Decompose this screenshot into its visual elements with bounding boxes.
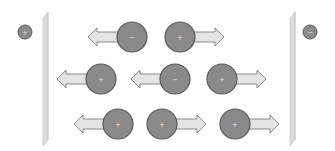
cation-ion: +: [57, 64, 116, 94]
anion-ion: −: [131, 64, 190, 94]
ion-charge-label: +: [159, 121, 165, 129]
ion-charge-label: +: [177, 34, 183, 42]
ion-charge-label: +: [232, 121, 238, 129]
ion-charge-label: +: [115, 121, 121, 129]
svg-text:+: +: [22, 29, 28, 37]
cation-ion: +: [147, 109, 206, 139]
ion-charge-label: −: [129, 34, 135, 42]
ion-charge-label: +: [98, 76, 104, 84]
ion-migration-diagram: +−−++−++++: [0, 0, 335, 151]
cation-ion: +: [74, 109, 133, 139]
ion-charge-label: −: [172, 76, 178, 84]
cation-ion: +: [165, 22, 224, 52]
electrode-sign-left: +: [18, 25, 32, 39]
electrode-plate-right: [290, 12, 295, 146]
cation-ion: +: [207, 64, 266, 94]
cation-ion: +: [220, 109, 279, 139]
electrode-plate-left: [43, 12, 48, 146]
anion-ion: −: [88, 22, 147, 52]
svg-text:−: −: [307, 29, 313, 37]
electrode-sign-right: −: [303, 25, 317, 39]
ion-charge-label: +: [219, 76, 225, 84]
